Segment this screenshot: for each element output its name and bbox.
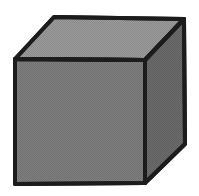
front-face-texture <box>15 59 145 184</box>
cube-figure <box>0 0 199 196</box>
cube <box>15 17 185 184</box>
cube-drawing <box>0 0 199 196</box>
